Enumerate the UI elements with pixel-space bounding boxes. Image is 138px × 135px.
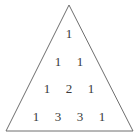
pascal-number: 1 (36, 82, 58, 95)
pascal-row: 1 (0, 27, 138, 40)
pascal-number: 1 (58, 27, 80, 40)
pascal-number: 1 (91, 110, 113, 123)
pascal-number: 1 (69, 55, 91, 68)
pascal-number: 1 (47, 55, 69, 68)
pascal-number: 3 (47, 110, 69, 123)
pascal-number: 1 (25, 110, 47, 123)
pascal-row: 1 2 1 (0, 82, 138, 95)
pascal-number: 3 (69, 110, 91, 123)
pascal-number: 1 (80, 82, 102, 95)
pascal-triangle-figure: 1 1 1 1 2 1 1 3 3 1 (0, 0, 138, 135)
pascal-row: 1 1 (0, 55, 138, 68)
pascal-number: 2 (58, 82, 80, 95)
pascal-number-grid: 1 1 1 1 2 1 1 3 3 1 (0, 0, 138, 135)
pascal-row: 1 3 3 1 (0, 110, 138, 123)
